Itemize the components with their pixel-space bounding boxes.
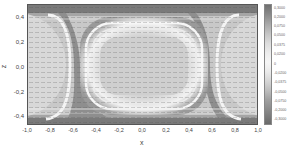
y-tick: 0,2 — [4, 39, 24, 45]
x-tick: 0,0 — [138, 127, 146, 133]
colorbar-label: -0,0200 — [274, 71, 286, 75]
colorbar-label: 0,0375 — [274, 43, 285, 47]
colorbar — [264, 4, 272, 125]
colorbar-label: -0,0375 — [274, 80, 286, 84]
vector-field — [28, 5, 258, 125]
x-tick: -0,6 — [68, 127, 77, 133]
y-tick: -0,2 — [4, 89, 24, 95]
x-tick: 0,4 — [185, 127, 193, 133]
colorbar-labels: 0,3000 0,2000 0,0750 0,0500 0,0375 0,020… — [274, 4, 292, 125]
colorbar-label: 0,2000 — [274, 15, 285, 19]
colorbar-label: 0,0750 — [274, 24, 285, 28]
x-tick: -0,2 — [114, 127, 123, 133]
x-tick: -1,0 — [22, 127, 31, 133]
plot-area — [27, 4, 258, 125]
colorbar-label: -0,2000 — [274, 108, 286, 112]
x-tick: 0,6 — [208, 127, 216, 133]
x-tick: -0,4 — [91, 127, 100, 133]
y-axis-label: z — [0, 65, 7, 69]
colorbar-label: 0,0500 — [274, 33, 285, 37]
x-tick: 1,0 — [254, 127, 262, 133]
colorbar-label: -0,0750 — [274, 99, 286, 103]
colorbar-label: -0,0500 — [274, 90, 286, 94]
x-axis-label: x — [140, 139, 144, 146]
x-tick: 0,2 — [162, 127, 170, 133]
y-tick: -0,4 — [4, 113, 24, 119]
x-tick: 0,8 — [231, 127, 239, 133]
x-tick: -0,8 — [45, 127, 54, 133]
colorbar-label: 0,0200 — [274, 52, 285, 56]
y-tick: 0,4 — [4, 14, 24, 20]
colorbar-label: -0,3000 — [274, 117, 286, 121]
colorbar-label: 0 — [274, 62, 276, 66]
colorbar-label: 0,3000 — [274, 6, 285, 10]
